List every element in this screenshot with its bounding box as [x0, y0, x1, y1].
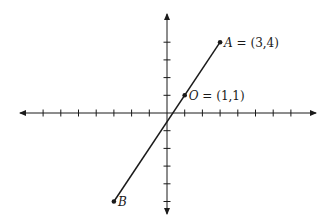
point-label-b: B	[117, 195, 127, 209]
point-label-o: O = (1,1)	[189, 89, 245, 103]
point-o	[182, 93, 187, 98]
coordinate-plane-diagram: A = (3,4)O = (1,1)B	[0, 0, 328, 222]
point-b	[112, 199, 117, 204]
point-a	[218, 40, 223, 45]
point-label-a: A = (3,4)	[223, 36, 279, 50]
points: A = (3,4)O = (1,1)B	[112, 36, 279, 209]
